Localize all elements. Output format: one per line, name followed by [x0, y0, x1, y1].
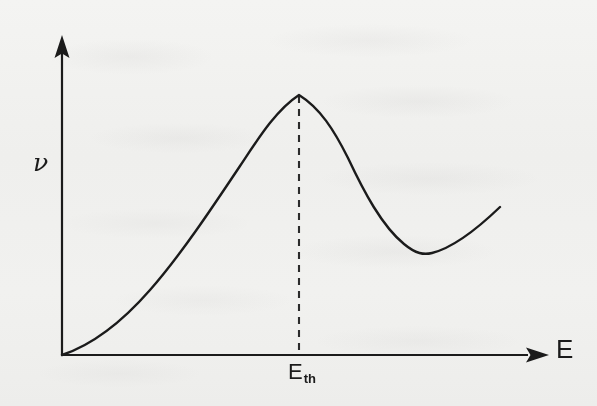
figure-root: ν E Eth: [0, 0, 597, 406]
y-axis: [55, 35, 70, 355]
threshold-label-base: E: [288, 359, 303, 384]
y-axis-label: ν: [33, 150, 48, 175]
x-axis-arrowhead-icon: [526, 348, 549, 363]
x-axis-label: E: [556, 336, 573, 362]
threshold-tick-label: Eth: [288, 361, 315, 383]
plot-canvas: [0, 0, 597, 406]
curve-neutron-multiplicity: [62, 95, 500, 355]
threshold-label-subscript: th: [304, 371, 316, 386]
